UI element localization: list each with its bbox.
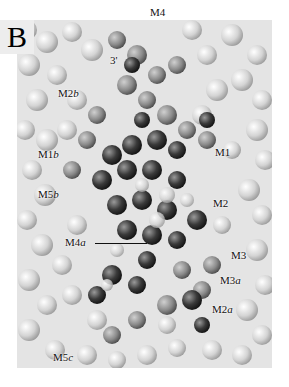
m4a-leader-line <box>95 243 147 244</box>
helix-label-m4: M4 <box>150 6 165 18</box>
helix-label-m5b: M5b <box>38 188 59 200</box>
helix-label-3-prime: 3' <box>110 54 117 66</box>
helix-label-m3: M3 <box>231 249 246 261</box>
helix-label-m1: M1 <box>215 146 230 158</box>
helix-label-m2: M2 <box>213 197 228 209</box>
helix-label-m3a: M3a <box>220 274 241 286</box>
helix-label-m2b: M2b <box>58 87 79 99</box>
helix-label-m2a: M2a <box>212 303 233 315</box>
helix-label-m1b: M1b <box>38 148 59 160</box>
helix-label-m5c: M5c <box>53 351 73 363</box>
panel-letter-label: B <box>0 20 34 54</box>
helix-label-m4a: M4a <box>65 236 86 248</box>
